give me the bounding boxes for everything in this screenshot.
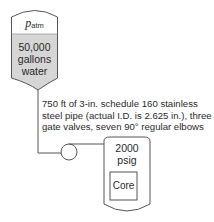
vessel-pressure-value: 2000 xyxy=(104,142,150,154)
tank-pressure-label: patm xyxy=(11,17,58,32)
tank-volume-label: 50,000 gallons water xyxy=(11,41,58,77)
volume-unit: gallons xyxy=(11,53,58,65)
pressure-subscript: atm xyxy=(31,21,44,30)
core-label: Core xyxy=(110,180,137,192)
vessel-pressure-unit: psig xyxy=(104,154,150,166)
volume-value: 50,000 xyxy=(11,41,58,53)
pump-icon xyxy=(61,144,77,160)
vessel-pressure-label: 2000 psig xyxy=(104,142,150,166)
pipe-description: 750 ft of 3-in. schedule 160 stainless s… xyxy=(42,98,214,133)
volume-fluid: water xyxy=(11,65,58,77)
